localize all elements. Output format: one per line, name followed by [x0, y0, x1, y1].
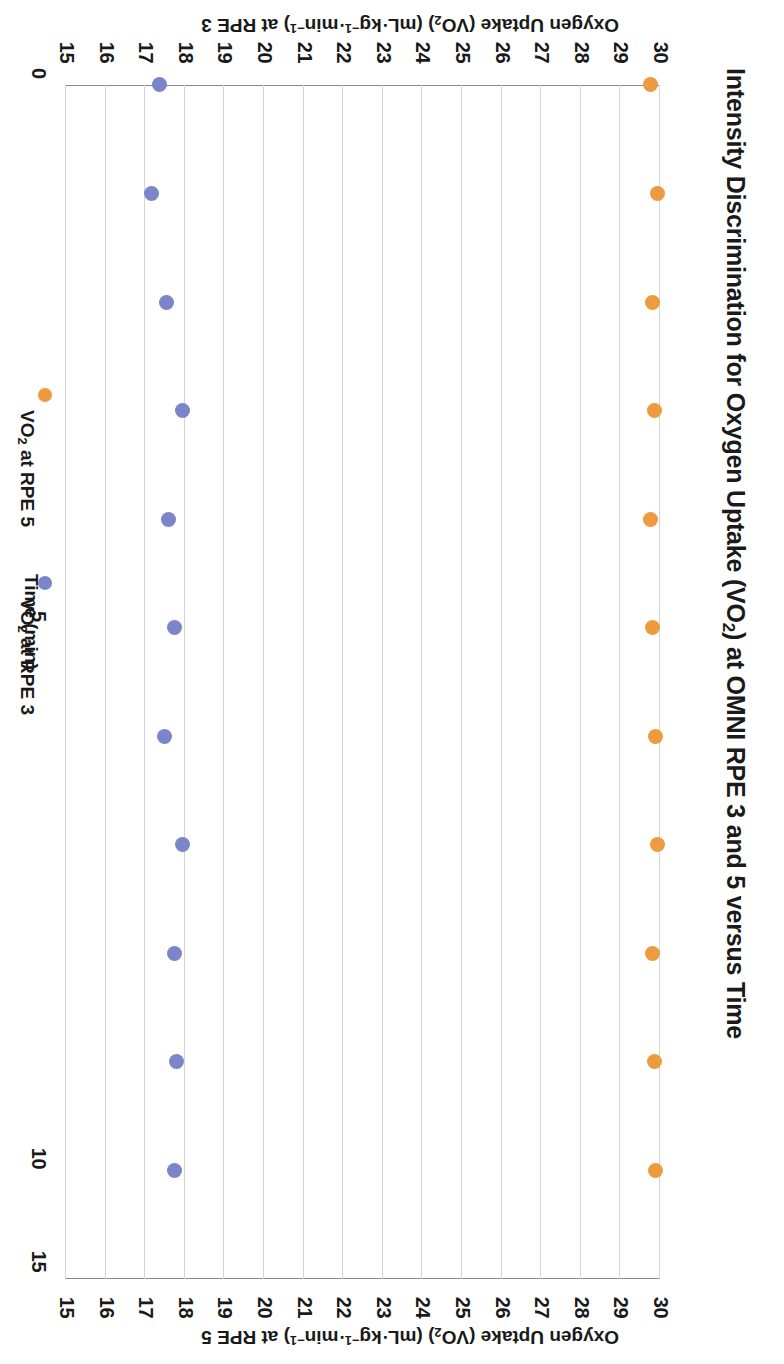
vo2-tick-25: 25 [451, 33, 474, 73]
vo2-tick-21: 21 [292, 33, 315, 73]
vo2-tick-21: 21 [292, 1288, 315, 1328]
legend-marker-rpe5 [38, 388, 52, 402]
gridline-vo2-23 [382, 85, 383, 1279]
legend-label-rpe5: VO2 at RPE 5 [15, 410, 38, 527]
axis-title-rpe3-b: ) (mL·kg [359, 15, 434, 36]
vo2-tick-18: 18 [173, 33, 196, 73]
data-point-series0-t10 [649, 1163, 664, 1178]
legend-label-rpe3: VO2 at RPE 3 [15, 598, 38, 715]
vo2-tick-22: 22 [332, 33, 355, 73]
vo2-tick-24: 24 [411, 33, 434, 73]
data-point-series0-t8 [645, 946, 660, 961]
vo2-tick-19: 19 [213, 1288, 236, 1328]
data-point-series0-t7 [651, 837, 666, 852]
data-point-series0-t2 [645, 295, 660, 310]
legend-label-text-a: VO [17, 598, 38, 625]
vo2-tick-23: 23 [371, 33, 394, 73]
gridline-vo2-27 [540, 85, 541, 1279]
vo2-tick-17: 17 [134, 1288, 157, 1328]
vo2-tick-29: 29 [609, 33, 632, 73]
gridline-vo2-19 [223, 85, 224, 1279]
data-point-series1-t0 [152, 78, 167, 93]
vo2-tick-18: 18 [173, 1288, 196, 1328]
vo2-tick-17: 17 [134, 33, 157, 73]
legend-label-text-b: at RPE 3 [17, 633, 38, 715]
data-point-series1-t6 [158, 729, 173, 744]
axis-title-rpe3: Oxygen Uptake (VO2) (mL·kg−1·min−1) at R… [201, 13, 619, 36]
vo2-tick-19: 19 [213, 33, 236, 73]
gridline-vo2-20 [263, 85, 264, 1279]
data-point-series1-t9 [169, 1054, 184, 1069]
gridline-vo2-26 [501, 85, 502, 1279]
vo2-tick-16: 16 [94, 33, 117, 73]
gridline-vo2-25 [461, 85, 462, 1279]
axis-title-rpe5-a: Oxygen Uptake (VO [442, 1327, 619, 1348]
axis-title-rpe3-c: ·min [305, 15, 345, 36]
axis-title-rpe5-b: ) (mL·kg [359, 1327, 434, 1348]
data-point-series1-t2 [160, 295, 175, 310]
data-point-series0-t5 [645, 620, 660, 635]
gridline-vo2-21 [303, 85, 304, 1279]
vo2-axis-corner-tick: 15 [27, 1242, 50, 1282]
vo2-tick-20: 20 [253, 33, 276, 73]
vo2-tick-27: 27 [530, 1288, 553, 1328]
legend: VO2 at RPE 5VO2 at RPE 3 [8, 424, 68, 724]
data-point-series0-t3 [647, 403, 662, 418]
gridline-vo2-29 [619, 85, 620, 1279]
vo2-tick-26: 26 [490, 1288, 513, 1328]
data-point-series1-t1 [144, 186, 159, 201]
vo2-tick-27: 27 [530, 33, 553, 73]
vo2-tick-15: 15 [55, 33, 78, 73]
gridline-vo2-28 [580, 85, 581, 1279]
vo2-tick-24: 24 [411, 1288, 434, 1328]
axis-title-rpe5-sub: 2 [434, 1325, 441, 1340]
gridline-vo2-18 [184, 85, 185, 1279]
vo2-tick-16: 16 [94, 1288, 117, 1328]
chart-title-sub: 2 [719, 623, 738, 632]
axis-title-rpe3-sup1: −1 [345, 21, 360, 36]
time-tick-10: 10 [27, 1139, 50, 1179]
gridline-vo2-22 [342, 85, 343, 1279]
chart-title-post: ) at OMNI RPE 3 and 5 versus Time [722, 632, 750, 1039]
axis-title-rpe5-sup2: −1 [290, 1333, 305, 1348]
vo2-tick-26: 26 [490, 33, 513, 73]
axis-title-rpe5-sup1: −1 [345, 1333, 360, 1348]
chart-title-pre: Intensity Discrimination for Oxygen Upta… [722, 68, 750, 623]
data-point-series1-t10 [167, 1163, 182, 1178]
axis-title-rpe5: Oxygen Uptake (VO2) (mL·kg−1·min−1) at R… [201, 1325, 619, 1348]
axis-title-rpe3-d: ) at RPE 3 [201, 15, 290, 36]
vo2-tick-28: 28 [569, 1288, 592, 1328]
data-point-series1-t5 [167, 620, 182, 635]
vo2-tick-22: 22 [332, 1288, 355, 1328]
data-point-series0-t9 [647, 1054, 662, 1069]
data-point-series1-t3 [175, 403, 190, 418]
axis-line-top [66, 1278, 660, 1279]
axis-title-rpe3-sub: 2 [434, 13, 441, 28]
legend-label-sub: 2 [15, 437, 30, 444]
data-point-series1-t8 [167, 946, 182, 961]
gridline-vo2-30 [659, 85, 660, 1279]
vo2-tick-15: 15 [55, 1288, 78, 1328]
axis-title-rpe5-c: ·min [305, 1327, 345, 1348]
chart-page: Intensity Discrimination for Oxygen Upta… [0, 0, 784, 1364]
vo2-tick-29: 29 [609, 1288, 632, 1328]
data-point-series1-t7 [175, 837, 190, 852]
legend-label-text-a: VO [17, 410, 38, 437]
data-point-series0-t1 [651, 186, 666, 201]
vo2-tick-30: 30 [649, 1288, 672, 1328]
vo2-tick-25: 25 [451, 1288, 474, 1328]
axis-title-rpe3-a: Oxygen Uptake (VO [442, 15, 619, 36]
legend-label-sub: 2 [15, 625, 30, 632]
vo2-tick-28: 28 [569, 33, 592, 73]
axis-title-rpe3-sup2: −1 [290, 21, 305, 36]
data-point-series1-t4 [162, 512, 177, 527]
gridline-vo2-24 [421, 85, 422, 1279]
legend-label-text-b: at RPE 5 [17, 445, 38, 527]
vo2-tick-20: 20 [253, 1288, 276, 1328]
gridline-vo2-16 [105, 85, 106, 1279]
plot-area [66, 85, 660, 1279]
legend-marker-rpe3 [38, 576, 52, 590]
gridline-vo2-17 [144, 85, 145, 1279]
vo2-tick-23: 23 [371, 1288, 394, 1328]
axis-title-rpe5-d: ) at RPE 5 [201, 1327, 290, 1348]
